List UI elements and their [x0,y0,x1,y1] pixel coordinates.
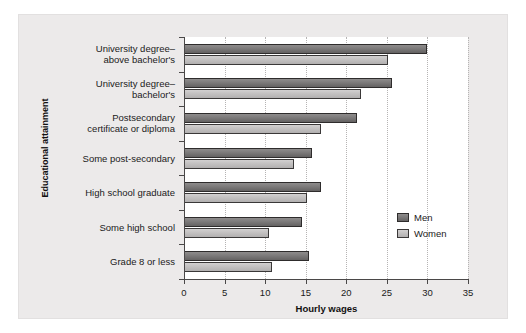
bar-men-5 [184,217,302,227]
x-tick-5 [225,279,226,284]
bar-men-3 [184,148,312,158]
gridline-25 [387,37,388,279]
bar-men-0 [184,44,427,54]
x-tick-label-0: 0 [169,287,199,298]
gridline-35 [468,37,469,279]
category-label-4: High school graduate [19,187,175,198]
y-axis-spine [184,37,185,279]
x-tick-label-15: 15 [291,287,321,298]
category-label-0: University degree– above bachelor's [19,43,175,65]
x-tick-10 [265,279,266,284]
y-tick-0 [179,37,184,38]
category-label-6: Grade 8 or less [19,256,175,267]
legend-label-women: Women [414,228,447,239]
category-label-5: Some high school [19,222,175,233]
legend-item-men: Men [397,210,447,224]
x-tick-label-20: 20 [331,287,361,298]
x-tick-0 [184,279,185,284]
bar-women-0 [184,55,388,65]
x-tick-label-25: 25 [372,287,402,298]
bar-men-1 [184,78,392,88]
chart-figure: Educational attainment University degree… [0,0,526,333]
plot-area [184,37,468,279]
y-tick-5 [179,210,184,211]
y-tick-1 [179,72,184,73]
bar-women-3 [184,159,294,169]
x-tick-30 [427,279,428,284]
legend-label-men: Men [414,212,432,223]
y-tick-6 [179,244,184,245]
chart-panel: Educational attainment University degree… [18,14,508,319]
y-tick-4 [179,175,184,176]
y-tick-2 [179,106,184,107]
x-axis-spine [184,279,469,280]
x-axis-title: Hourly wages [184,303,469,314]
bar-men-2 [184,113,357,123]
bar-women-5 [184,228,269,238]
x-tick-35 [468,279,469,284]
gridline-20 [346,37,347,279]
category-label-1: University degree– bachelor's [19,78,175,100]
bar-women-1 [184,89,361,99]
category-label-3: Some post-secondary [19,153,175,164]
y-tick-3 [179,141,184,142]
bar-men-4 [184,182,321,192]
x-tick-20 [346,279,347,284]
x-tick-label-35: 35 [453,287,483,298]
bar-men-6 [184,251,309,261]
x-tick-label-30: 30 [412,287,442,298]
legend-swatch-men-icon [397,213,409,222]
legend-item-women: Women [397,226,447,240]
x-tick-label-5: 5 [210,287,240,298]
chart-legend: Men Women [397,210,447,242]
x-tick-label-10: 10 [250,287,280,298]
x-tick-25 [387,279,388,284]
legend-swatch-women-icon [397,229,409,238]
x-tick-15 [306,279,307,284]
bar-women-2 [184,124,321,134]
gridline-15 [306,37,307,279]
bar-women-6 [184,262,272,272]
bar-women-4 [184,193,307,203]
gridline-30 [427,37,428,279]
category-label-2: Postsecondary certificate or diploma [19,112,175,134]
